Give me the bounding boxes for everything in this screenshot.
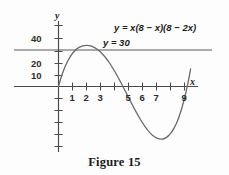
curve-equation-label: y = x(8 − x)(8 − 2x) (113, 22, 196, 33)
horizontal-line-label: y = 30 (102, 37, 130, 48)
figure-caption: Figure 15 (0, 155, 229, 170)
x-tick-label-3: 3 (98, 92, 103, 103)
y-tick-label-20: 20 (31, 58, 42, 69)
y-tick-label-10: 10 (31, 70, 42, 81)
x-axis-label: x (189, 76, 195, 87)
x-tick-label-1: 1 (70, 92, 76, 103)
x-tick-label-7: 7 (154, 92, 159, 103)
function-graph-plot: y x 40 20 10 1 2 3 5 6 7 9 y = x(8 − x)(… (0, 0, 229, 175)
y-axis-label: y (54, 10, 60, 21)
figure-container: y x 40 20 10 1 2 3 5 6 7 9 y = x(8 − x)(… (0, 0, 229, 175)
x-tick-label-2: 2 (84, 92, 89, 103)
y-tick-label-40: 40 (31, 33, 42, 44)
x-tick-label-5: 5 (126, 92, 132, 103)
x-tick-label-9: 9 (182, 92, 187, 103)
x-tick-label-6: 6 (140, 92, 145, 103)
